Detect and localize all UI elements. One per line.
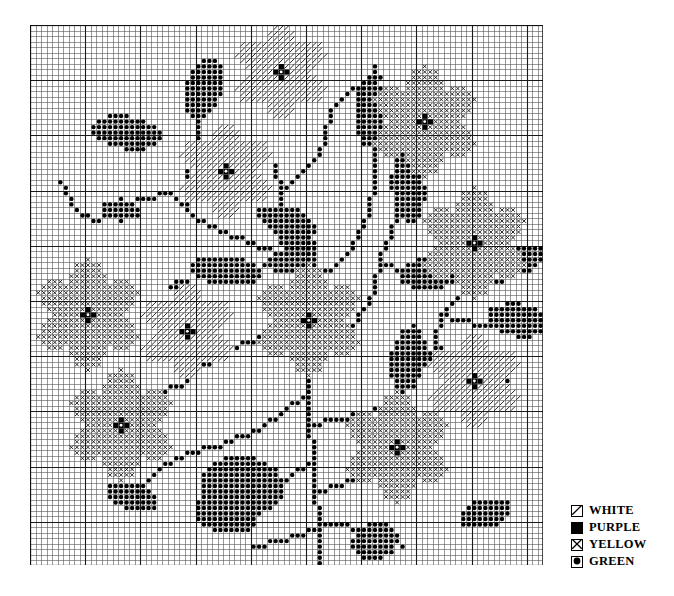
legend-label: WHITE (589, 504, 634, 517)
legend-row: GREEN (571, 553, 671, 570)
chart-stitch-pattern (30, 25, 543, 565)
yellow-symbol-icon (571, 539, 583, 551)
white-symbol-icon (571, 505, 583, 517)
purple-symbol-icon (571, 522, 583, 534)
legend-row: WHITE (571, 502, 671, 519)
legend: WHITE PURPLE YELLOW GREEN (571, 502, 671, 570)
legend-row: PURPLE (571, 519, 671, 536)
green-symbol-icon (571, 556, 583, 568)
legend-row: YELLOW (571, 536, 671, 553)
legend-label: YELLOW (589, 538, 646, 551)
legend-label: PURPLE (589, 521, 640, 534)
legend-label: GREEN (589, 555, 634, 568)
cross-stitch-chart (30, 25, 543, 565)
